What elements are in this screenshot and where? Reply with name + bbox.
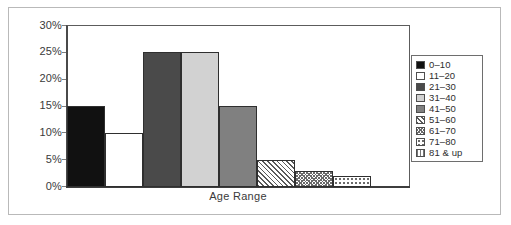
bar-31–40[interactable] [181, 52, 219, 187]
legend-item-label: 41–50 [429, 104, 456, 114]
legend-swatch-icon [416, 61, 425, 69]
legend-item[interactable]: 51–60 [416, 114, 479, 125]
bar-51–60[interactable] [257, 160, 295, 187]
y-axis-tick-label: 0% [4, 181, 62, 192]
legend-item-label: 11–20 [429, 71, 455, 81]
legend-item[interactable]: 81 & up [416, 147, 479, 158]
plot-right-edge [409, 25, 410, 187]
bar-71–80[interactable] [333, 176, 371, 187]
legend-item[interactable]: 41–50 [416, 103, 479, 114]
chart-legend: 0–1011–2021–3031–4041–5051–6061–7071–808… [411, 55, 483, 162]
bar-61–70[interactable] [295, 171, 333, 187]
y-axis-tick-label: 20% [4, 73, 62, 84]
legend-item[interactable]: 21–30 [416, 81, 479, 92]
legend-swatch-icon [416, 105, 425, 113]
x-axis-title: Age Range [66, 190, 410, 202]
legend-swatch-icon [416, 127, 425, 135]
legend-item-label: 51–60 [429, 115, 456, 125]
y-axis-tick-label: 15% [4, 100, 62, 111]
legend-item[interactable]: 61–70 [416, 125, 479, 136]
y-axis-tick-label: 5% [4, 154, 62, 165]
legend-item-label: 0–10 [429, 60, 451, 70]
bar-11–20[interactable] [105, 133, 143, 187]
legend-swatch-icon [416, 83, 425, 91]
y-axis: 30%25%20%15%10%5%0% [0, 0, 62, 225]
bar-0–10[interactable] [67, 106, 105, 187]
legend-swatch-icon [416, 94, 425, 102]
bar-21–30[interactable] [143, 52, 181, 187]
legend-item[interactable]: 71–80 [416, 136, 479, 147]
legend-item-label: 61–70 [429, 126, 456, 136]
bar-series [67, 25, 409, 187]
bar-41–50[interactable] [219, 106, 257, 187]
legend-item-label: 81 & up [429, 148, 462, 158]
legend-swatch-icon [416, 138, 425, 146]
legend-item-label: 21–30 [429, 82, 456, 92]
y-axis-tick-label: 25% [4, 46, 62, 57]
y-axis-tick-label: 10% [4, 127, 62, 138]
legend-swatch-icon [416, 72, 425, 80]
legend-item[interactable]: 31–40 [416, 92, 479, 103]
legend-item[interactable]: 11–20 [416, 70, 479, 81]
chart-screenshot: 30%25%20%15%10%5%0% Age Range 0–1011–202… [0, 0, 511, 225]
legend-item-label: 71–80 [429, 137, 456, 147]
legend-swatch-icon [416, 149, 425, 157]
y-axis-tick-label: 30% [4, 20, 62, 31]
legend-item[interactable]: 0–10 [416, 59, 479, 70]
legend-item-label: 31–40 [429, 93, 456, 103]
legend-swatch-icon [416, 116, 425, 124]
